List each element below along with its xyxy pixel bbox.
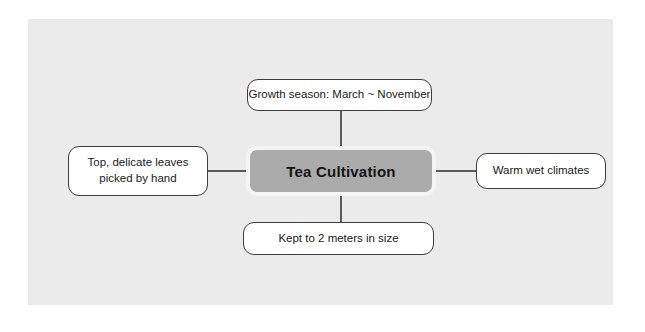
node-picked-by-hand-line1: Top, delicate leaves bbox=[87, 156, 188, 168]
node-warm-wet-climates-label: Warm wet climates bbox=[493, 163, 590, 179]
node-growth-season[interactable]: Growth season: March ~ November bbox=[247, 79, 432, 111]
node-kept-to-2-meters[interactable]: Kept to 2 meters in size bbox=[243, 222, 434, 255]
connector-center-to-right bbox=[432, 170, 476, 172]
node-warm-wet-climates[interactable]: Warm wet climates bbox=[476, 153, 606, 189]
node-tea-cultivation-label: Tea Cultivation bbox=[286, 163, 395, 180]
connector-center-to-left bbox=[208, 170, 250, 172]
node-growth-season-label: Growth season: March ~ November bbox=[249, 87, 431, 103]
diagram-canvas: Growth season: March ~ November Top, del… bbox=[28, 19, 613, 305]
node-picked-by-hand-line2: picked by hand bbox=[99, 172, 176, 184]
node-tea-cultivation[interactable]: Tea Cultivation bbox=[250, 150, 432, 192]
node-picked-by-hand-label: Top, delicate leaves picked by hand bbox=[87, 155, 188, 186]
connector-center-to-bottom bbox=[340, 192, 342, 222]
connector-center-to-top bbox=[340, 111, 342, 150]
node-kept-to-2-meters-label: Kept to 2 meters in size bbox=[278, 231, 398, 247]
node-picked-by-hand[interactable]: Top, delicate leaves picked by hand bbox=[68, 146, 208, 196]
